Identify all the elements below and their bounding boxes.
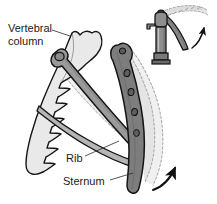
- label-sternum: Sternum: [63, 175, 105, 187]
- label-vertebral-column-line2: column: [8, 35, 43, 47]
- pump-head: [155, 12, 167, 27]
- label-vertebral-column-line1: Vertebral: [8, 22, 52, 34]
- rib-movement-figure: Vertebral column Rib Sternum: [0, 0, 217, 204]
- sternum-segment-mark-2: [127, 88, 134, 96]
- label-rib: Rib: [66, 152, 83, 164]
- pump-base-collar: [154, 53, 168, 60]
- rib-head-articulation: [55, 52, 64, 60]
- anatomical-illustration: Vertebral column Rib Sternum: [0, 0, 217, 204]
- pump-base-plate: [152, 60, 170, 64]
- sternum-manubrium-notch: [119, 48, 125, 54]
